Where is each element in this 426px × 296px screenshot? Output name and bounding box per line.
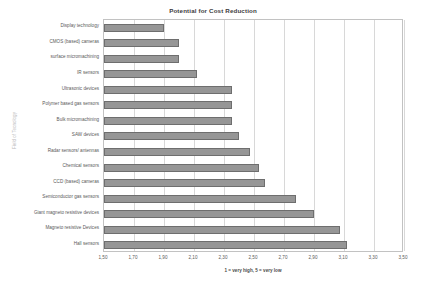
category-label: Chemical sensors bbox=[0, 164, 99, 169]
category-label: surface micromachining bbox=[0, 55, 99, 60]
plot-area bbox=[103, 19, 403, 252]
bar-row[interactable] bbox=[104, 51, 179, 67]
bar[interactable] bbox=[104, 39, 179, 47]
bar-chart-figure: Potential for Cost Reduction Field of Te… bbox=[0, 0, 426, 296]
bar[interactable] bbox=[104, 195, 296, 203]
bar[interactable] bbox=[104, 101, 232, 109]
bar-row[interactable] bbox=[104, 237, 347, 253]
x-axis-caption: 1 = very high, 5 = very low bbox=[103, 268, 403, 273]
bar[interactable] bbox=[104, 24, 164, 32]
category-label: IR sensors bbox=[0, 71, 99, 76]
category-label: Polymer based gas sensors bbox=[0, 102, 99, 107]
bar[interactable] bbox=[104, 132, 239, 140]
bar-row[interactable] bbox=[104, 222, 340, 238]
chart-title: Potential for Cost Reduction bbox=[0, 7, 426, 14]
category-label: Display technology bbox=[0, 24, 99, 29]
bar[interactable] bbox=[104, 164, 259, 172]
gridline bbox=[404, 20, 405, 251]
x-tick-label: 3,50 bbox=[383, 255, 423, 260]
bar-row[interactable] bbox=[104, 191, 296, 207]
category-label: Radar sensors/ antennas bbox=[0, 149, 99, 154]
bar-row[interactable] bbox=[104, 160, 259, 176]
bar-row[interactable] bbox=[104, 113, 232, 129]
bar[interactable] bbox=[104, 179, 265, 187]
category-label: Semiconductor gas sensors bbox=[0, 195, 99, 200]
bar[interactable] bbox=[104, 86, 232, 94]
bar-row[interactable] bbox=[104, 175, 265, 191]
category-label: Hall sensors bbox=[0, 242, 99, 247]
bar-row[interactable] bbox=[104, 36, 179, 52]
bar-row[interactable] bbox=[104, 20, 164, 36]
bar[interactable] bbox=[104, 226, 340, 234]
bar[interactable] bbox=[104, 55, 179, 63]
bar-row[interactable] bbox=[104, 144, 250, 160]
bar-row[interactable] bbox=[104, 98, 232, 114]
category-label: Giant magneto resistive devices bbox=[0, 211, 99, 216]
bar-row[interactable] bbox=[104, 67, 197, 83]
bar[interactable] bbox=[104, 148, 250, 156]
category-label: Magneto resistive Devices bbox=[0, 226, 99, 231]
bar-row[interactable] bbox=[104, 82, 232, 98]
y-axis-title: Field of Tecnology bbox=[12, 108, 17, 154]
category-label: SAW devices bbox=[0, 133, 99, 138]
category-label: CMOS (based) cameras bbox=[0, 40, 99, 45]
category-label: CCD (based) cameras bbox=[0, 180, 99, 185]
category-label: Bulk micromachining bbox=[0, 118, 99, 123]
bar[interactable] bbox=[104, 210, 314, 218]
bar[interactable] bbox=[104, 117, 232, 125]
bar[interactable] bbox=[104, 241, 347, 249]
category-label: Ultrasonic devices bbox=[0, 87, 99, 92]
bar-row[interactable] bbox=[104, 129, 239, 145]
bar-row[interactable] bbox=[104, 206, 314, 222]
bar-series bbox=[104, 20, 402, 251]
bar[interactable] bbox=[104, 70, 197, 78]
